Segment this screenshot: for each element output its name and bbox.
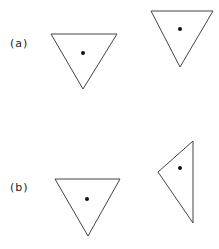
dot-b-right [178,166,182,170]
dot-a-right [178,27,182,31]
triangle-b-right [158,141,193,223]
triangle-a-right [151,11,213,67]
dot-a-left [81,51,85,55]
dot-b-left [85,197,89,201]
triangle-a-left [51,34,117,89]
triangle-b-left [55,179,120,236]
diagram [0,0,219,249]
